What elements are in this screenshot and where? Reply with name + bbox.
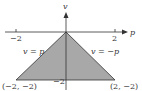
- right-edge-label: v = −p: [91, 47, 119, 56]
- v-axis-arrow-icon: [64, 12, 69, 18]
- vertex-right-label: (2, −2): [110, 82, 138, 91]
- x-tick-label-plus2: 2: [112, 34, 117, 43]
- v-tick-label-minus2: −2: [53, 77, 65, 86]
- v-axis-label: v: [63, 2, 68, 11]
- triangle-region-diagram: p v −2 2 v = p v = −p −2 (−2, −2) (2, −2…: [0, 0, 142, 91]
- shaded-triangle-region: [16, 32, 115, 80]
- left-edge-label: v = p: [23, 47, 44, 56]
- x-tick-label-minus2: −2: [10, 34, 22, 43]
- p-axis-arrow-icon: [122, 30, 128, 35]
- p-axis-label: p: [130, 28, 135, 37]
- vertex-left-label: (−2, −2): [2, 82, 37, 91]
